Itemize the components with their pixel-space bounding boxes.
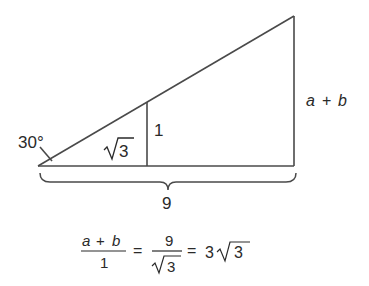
diagram-canvas: 30° 3 1 a + b 9 a + b 1 = 9 3 = 3 3 — [0, 0, 369, 286]
coef-3: 3 — [205, 244, 214, 261]
small-height-label: 1 — [154, 121, 163, 140]
label-plus: + — [322, 92, 331, 109]
label-b: b — [338, 92, 347, 109]
fraction-a-plus-b-over-1: a + b 1 — [81, 232, 126, 271]
fraction-9-over-sqrt3: 9 3 — [152, 232, 182, 275]
equals-2: = — [187, 242, 196, 259]
hypotenuse-line — [38, 16, 294, 166]
num-a: a — [82, 232, 90, 249]
radicand-text: 3 — [119, 142, 128, 161]
large-triangle — [38, 16, 294, 166]
base-length-label: 9 — [162, 194, 171, 213]
result-radicand: 3 — [234, 244, 243, 261]
num-plus: + — [96, 232, 105, 249]
den-1: 1 — [100, 254, 108, 271]
equation: a + b 1 = 9 3 = 3 3 — [81, 232, 250, 275]
large-height-label: a + b — [306, 92, 347, 109]
equals-1: = — [133, 242, 142, 259]
result-3-sqrt3: 3 3 — [205, 242, 250, 261]
sqrt3-base-label: 3 — [104, 138, 134, 161]
den-radicand: 3 — [167, 258, 175, 275]
label-a: a — [306, 92, 315, 109]
base-brace — [40, 173, 296, 190]
angle-label: 30° — [18, 133, 44, 152]
num-b: b — [112, 232, 120, 249]
num-9: 9 — [165, 232, 173, 249]
